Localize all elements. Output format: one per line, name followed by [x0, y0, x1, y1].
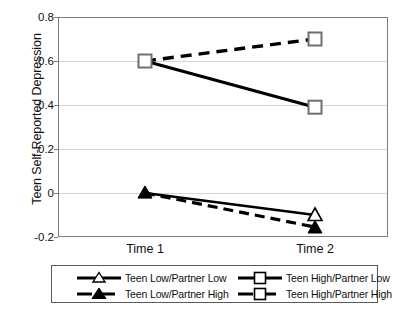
legend-entry-teen-low-partner-high: Teen Low/Partner High	[76, 286, 229, 302]
legend-swatch-triangle-open-solid	[76, 271, 122, 285]
y-tick-mark	[54, 237, 58, 238]
data-series-layer	[58, 17, 388, 237]
chart-figure: Teen Self-Reported Depression 0.8 0.6 0.…	[0, 0, 406, 319]
y-tick-label-0p2: 0.2	[10, 143, 54, 155]
y-axis-title: Teen Self-Reported Depression	[30, 4, 44, 234]
series-line-teen-high-partner-low	[145, 61, 315, 107]
marker-square-open-high-partner-low-time2	[309, 101, 322, 114]
marker-square-open-high-time1	[139, 55, 152, 68]
series-line-teen-low-partner-low	[145, 193, 315, 215]
x-tick-label-time-1: Time 1	[100, 242, 190, 256]
series-line-teen-high-partner-high	[145, 39, 315, 61]
marker-square-open-high-partner-high-time2	[309, 33, 322, 46]
y-tick-label-neg0p2: -0.2	[10, 231, 54, 243]
series-line-teen-low-partner-high	[145, 193, 315, 227]
legend-label: Teen Low/Partner High	[125, 288, 229, 300]
legend-label: Teen High/Partner Low	[286, 272, 390, 284]
legend-swatch-square-open-solid	[237, 271, 283, 285]
legend-swatch-triangle-filled-dashed	[76, 287, 122, 301]
y-tick-label-0: 0	[10, 187, 54, 199]
y-tick-label-0p4: 0.4	[10, 99, 54, 111]
chart-legend: Teen Low/Partner Low Teen High/Partner L…	[51, 265, 378, 303]
legend-entry-teen-high-partner-high: Teen High/Partner High	[237, 286, 392, 302]
y-tick-label-0p8: 0.8	[10, 11, 54, 23]
legend-entry-teen-high-partner-low: Teen High/Partner Low	[237, 270, 390, 286]
y-tick-label-0p6: 0.6	[10, 55, 54, 67]
legend-label: Teen High/Partner High	[286, 288, 392, 300]
legend-label: Teen Low/Partner Low	[125, 272, 226, 284]
x-tick-label-time-2: Time 2	[270, 242, 360, 256]
legend-entry-teen-low-partner-low: Teen Low/Partner Low	[76, 270, 226, 286]
legend-swatch-square-open-dashed	[237, 287, 283, 301]
